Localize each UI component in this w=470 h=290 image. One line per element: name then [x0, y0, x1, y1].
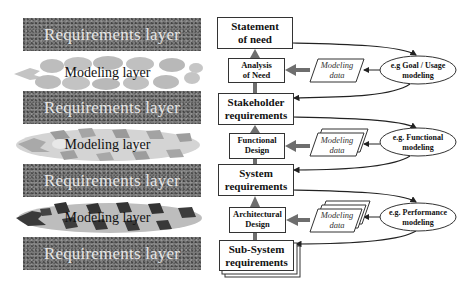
- modeling-data-label-1: Modeling data: [312, 60, 362, 80]
- box-line: System: [239, 167, 273, 180]
- ellipse-line: e.g Goal / Usage: [380, 61, 456, 71]
- box-line: requirements: [225, 180, 288, 193]
- ellipse-line: e.g. Functional: [380, 133, 456, 143]
- box-line: of Need: [243, 71, 271, 81]
- system-requirements-box: System requirements: [218, 164, 294, 196]
- goal-usage-modeling-label: e.g Goal / Usage modeling: [380, 61, 456, 80]
- ellipse-line: modeling: [380, 71, 456, 81]
- modeling-data-label-3: Modeling data: [312, 210, 362, 230]
- architectural-design-box: Architectural Design: [229, 207, 286, 233]
- para-line: Modeling: [312, 60, 362, 70]
- analysis-of-need-box: Analysis of Need: [228, 58, 285, 83]
- ellipse-line: modeling: [380, 143, 456, 153]
- functional-modeling-label: e.g. Functional modeling: [380, 133, 456, 152]
- performance-modeling-label: e.g. Performance modeling: [380, 208, 456, 227]
- functional-design-box: Functional Design: [229, 133, 285, 159]
- para-line: Modeling: [312, 210, 362, 220]
- para-line: Modeling: [312, 135, 362, 145]
- ellipse-line: modeling: [380, 218, 456, 228]
- box-line: requirements: [225, 109, 288, 122]
- para-line: data: [312, 145, 362, 155]
- box-line: Design: [245, 220, 270, 230]
- statement-of-need-box: Statement of need: [217, 17, 293, 49]
- box-line: requirements: [225, 256, 288, 269]
- box-line: Statement: [231, 20, 279, 33]
- para-line: data: [312, 220, 362, 230]
- stakeholder-requirements-box: Stakeholder requirements: [218, 93, 294, 125]
- box-line: Sub-System: [229, 243, 285, 256]
- box-line: of need: [238, 33, 272, 46]
- box-line: Design: [245, 146, 270, 156]
- box-line: Stakeholder: [228, 96, 285, 109]
- ellipse-line: e.g. Performance: [380, 208, 456, 218]
- modeling-data-label-2: Modeling data: [312, 135, 362, 155]
- sub-system-requirements-box: Sub-System requirements: [219, 240, 294, 271]
- para-line: data: [312, 70, 362, 80]
